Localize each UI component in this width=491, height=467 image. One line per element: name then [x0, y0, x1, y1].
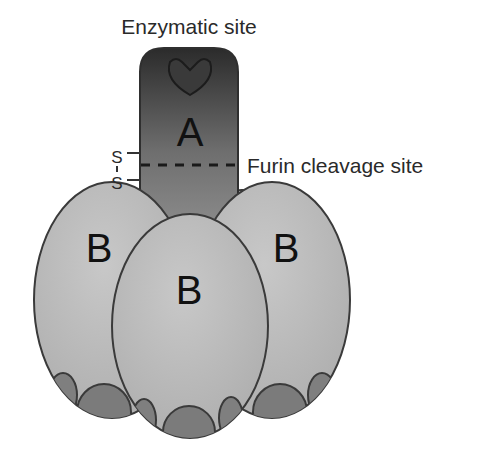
b-subunit-left-label: B — [86, 226, 113, 270]
b-subunit-center: B — [112, 214, 268, 458]
enzymatic-site-label: Enzymatic site — [121, 15, 256, 38]
disulfide-s-bottom: S — [111, 174, 122, 193]
furin-cleavage-site-label: Furin cleavage site — [247, 154, 423, 177]
receptor-binding-blob — [163, 406, 215, 458]
receptor-binding-blob — [77, 384, 131, 440]
disulfide-s-top: S — [111, 148, 122, 167]
receptor-binding-blob — [49, 373, 77, 417]
receptor-binding-blob — [308, 373, 336, 417]
b-subunit-center-label: B — [176, 268, 203, 312]
a-subunit-label: A — [177, 110, 204, 154]
receptor-binding-blob — [253, 384, 307, 440]
receptor-binding-blob — [219, 397, 243, 439]
b-subunit-right-label: B — [273, 226, 300, 270]
toxin-structure-diagram: A B B B S S — [0, 0, 491, 467]
receptor-binding-blob — [132, 399, 156, 441]
